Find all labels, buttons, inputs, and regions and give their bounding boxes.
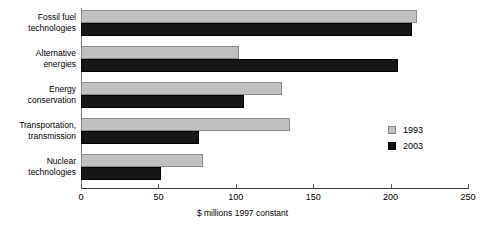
bar-2003-5: [81, 167, 161, 180]
legend-label-2003: 2003: [403, 141, 423, 152]
tick-label-250: 250: [448, 192, 485, 203]
tick-mark-200: [391, 184, 392, 189]
tick-label-0: 0: [61, 192, 101, 203]
category-label-transportation-transmission: Transportation, transmission: [0, 120, 76, 141]
bar-2003-4: [81, 131, 199, 144]
plot-area: [81, 8, 468, 188]
tick-label-50: 50: [138, 192, 178, 203]
category-label-energy-conservation: Energy conservation: [0, 84, 76, 105]
bar-1993-1: [81, 10, 417, 23]
bar-2003-2: [81, 59, 398, 72]
tick-mark-250: [468, 184, 469, 189]
bar-2003-3: [81, 95, 244, 108]
category-label-fossil-fuel-technologies: Fossil fuel technologies: [0, 12, 76, 33]
bar-2003-1: [81, 23, 412, 36]
legend-swatch-icon-2003: [388, 142, 396, 150]
legend-item-2003[interactable]: 2003: [388, 138, 423, 154]
legend-swatch-icon-1993: [388, 126, 396, 134]
tick-mark-50: [158, 184, 159, 189]
legend: 1993 2003: [388, 122, 423, 154]
x-axis-title: $ millions 1997 constant: [0, 208, 485, 219]
legend-label-1993: 1993: [403, 125, 423, 136]
bar-1993-3: [81, 82, 282, 95]
category-label-alternative-energies: Alternative energies: [0, 48, 76, 69]
tick-label-100: 100: [216, 192, 256, 203]
bar-1993-2: [81, 46, 239, 59]
tick-label-200: 200: [371, 192, 411, 203]
x-axis-line: [81, 188, 469, 189]
legend-item-1993[interactable]: 1993: [388, 122, 423, 138]
tick-mark-100: [236, 184, 237, 189]
bar-chart: Fossil fuel technologies Alternative ene…: [0, 0, 485, 233]
category-label-nuclear-technologies: Nuclear technologies: [0, 156, 76, 177]
tick-mark-150: [313, 184, 314, 189]
bar-1993-5: [81, 154, 203, 167]
bar-1993-4: [81, 118, 290, 131]
tick-mark-0: [81, 184, 82, 189]
tick-label-150: 150: [293, 192, 333, 203]
